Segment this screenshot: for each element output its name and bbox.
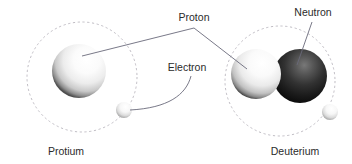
- leader-line-electron: [130, 76, 191, 110]
- atom-isotope-diagram: Protium Deuterium Proton Neutron Electro…: [0, 0, 352, 164]
- atom-deuterium: Deuterium: [225, 26, 338, 157]
- proton-sphere-deuterium: [231, 49, 281, 99]
- leader-line-proton-left: [82, 28, 194, 56]
- atom-protium: Protium: [27, 22, 137, 157]
- label-proton: Proton: [179, 11, 210, 23]
- caption-protium: Protium: [48, 145, 84, 157]
- caption-deuterium: Deuterium: [271, 145, 320, 157]
- callout-proton: Proton: [82, 11, 247, 69]
- label-neutron: Neutron: [294, 6, 332, 18]
- electron-sphere-protium: [116, 102, 132, 118]
- electron-sphere-deuterium: [322, 104, 338, 120]
- callout-electron: Electron: [130, 61, 206, 110]
- diagram-canvas: Protium Deuterium Proton Neutron Electro…: [0, 0, 352, 164]
- label-electron: Electron: [168, 61, 207, 73]
